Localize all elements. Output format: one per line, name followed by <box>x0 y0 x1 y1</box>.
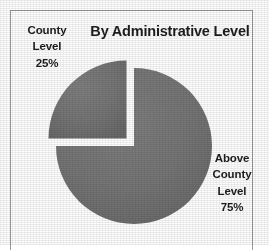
pie-label-above-county-level-value: 75% <box>205 199 259 215</box>
pie-label-county-level-value: 25% <box>12 55 82 71</box>
pie-label-county-level: County Level 25% <box>12 22 82 71</box>
pie-label-county-level-line-2: Level <box>12 38 82 54</box>
pie-label-above-county-level-line-3: Level <box>205 183 259 199</box>
pie-slice-county-level <box>49 61 127 139</box>
pie-label-above-county-level: Above County Level 75% <box>205 150 259 215</box>
pie-label-above-county-level-line-2: County <box>205 166 259 182</box>
pie-label-county-level-line-1: County <box>12 22 82 38</box>
pie-label-above-county-level-line-1: Above <box>205 150 259 166</box>
